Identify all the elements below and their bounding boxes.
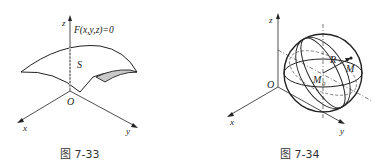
shaded-patch (96, 70, 137, 82)
y-axis-arrow-icon (338, 119, 345, 124)
radius-label: R (329, 54, 336, 65)
origin-label: O (267, 79, 274, 90)
z-axis-label: z (268, 15, 273, 25)
surface-label: S (77, 59, 82, 70)
figure-7-34: z O x y R M 0 M 图 7-34 (190, 0, 383, 166)
x-axis-label: x (22, 123, 27, 133)
figure-caption: 图 7-34 (280, 145, 319, 161)
center-label: M (312, 74, 322, 85)
equation-label: F(x,y,z)=0 (73, 25, 114, 36)
point-label: M (345, 63, 355, 74)
y-axis-label: y (125, 126, 130, 136)
z-axis-arrow-icon (276, 13, 280, 19)
figure-caption: 图 7-33 (60, 145, 99, 161)
x-axis (20, 91, 70, 121)
y-axis-label: y (339, 126, 344, 136)
surface-left-edge (21, 72, 80, 92)
x-axis (230, 87, 278, 115)
surface-diagram: z F(x,y,z)=0 S O x y (0, 0, 190, 166)
center-subscript: 0 (322, 80, 326, 87)
x-axis-label: x (229, 117, 234, 127)
sphere-diagram: z O x y R M 0 M (190, 0, 383, 166)
z-axis-label: z (61, 18, 66, 28)
y-axis-arrow-icon (131, 123, 138, 128)
y-axis (70, 91, 135, 126)
z-axis-arrow-icon (68, 15, 72, 21)
figure-7-33: z F(x,y,z)=0 S O x y 图 7-33 (0, 0, 190, 166)
origin-label: O (67, 96, 74, 107)
diagonal-center-line (278, 50, 372, 101)
point-m-dot (349, 56, 352, 59)
